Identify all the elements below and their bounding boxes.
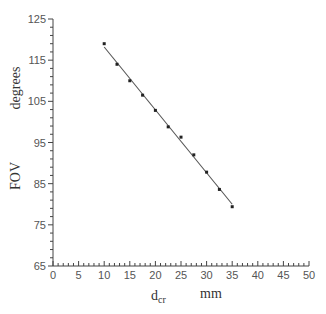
data-point: [128, 79, 131, 82]
x-axis-unit: mm: [200, 286, 222, 301]
x-tick-label: 20: [149, 269, 161, 281]
y-tick-label: 65: [34, 260, 46, 272]
x-tick-label: 5: [76, 269, 82, 281]
x-tick-label: 25: [175, 269, 187, 281]
data-point: [192, 153, 195, 156]
data-point: [116, 63, 119, 66]
x-tick-label: 15: [124, 269, 136, 281]
y-axis-title: FOV: [8, 162, 23, 190]
y-axis-unit: degrees: [8, 67, 23, 110]
y-tick-label: 105: [28, 95, 46, 107]
x-tick-label: 10: [98, 269, 110, 281]
x-tick-label: 35: [226, 269, 238, 281]
data-point: [141, 94, 144, 97]
y-tick-label: 75: [34, 219, 46, 231]
data-point: [167, 125, 170, 128]
data-point: [231, 205, 234, 208]
data-point: [154, 109, 157, 112]
x-axis-title: dcr: [151, 288, 166, 305]
x-tick-label: 45: [277, 269, 289, 281]
data-point: [205, 171, 208, 174]
fov-vs-dcr-chart: 65758595105115125 05101520253035404550 F…: [0, 0, 326, 314]
y-tick-label: 95: [34, 137, 46, 149]
y-axis: 65758595105115125: [28, 13, 53, 272]
data-point: [180, 136, 183, 139]
x-tick-label: 0: [50, 269, 56, 281]
x-tick-label: 40: [252, 269, 264, 281]
data-point: [103, 42, 106, 45]
y-tick-label: 85: [34, 178, 46, 190]
data-point: [218, 188, 221, 191]
y-tick-label: 125: [28, 13, 46, 25]
x-axis: 05101520253035404550: [50, 261, 315, 281]
x-tick-label: 30: [200, 269, 212, 281]
y-tick-label: 115: [28, 54, 46, 66]
x-tick-label: 50: [303, 269, 315, 281]
